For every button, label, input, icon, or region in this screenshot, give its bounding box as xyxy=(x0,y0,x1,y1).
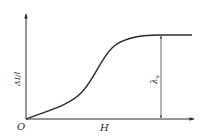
saturation-label: λs xyxy=(149,75,160,85)
saturation-subscript: s xyxy=(153,75,160,78)
y-axis-label: ΔI/l xyxy=(13,71,22,87)
magnetostriction-diagram: O H ΔI/l λs xyxy=(0,0,210,138)
magnetostriction-curve xyxy=(26,35,192,119)
origin-label: O xyxy=(17,121,25,132)
x-axis-label: H xyxy=(99,122,109,133)
